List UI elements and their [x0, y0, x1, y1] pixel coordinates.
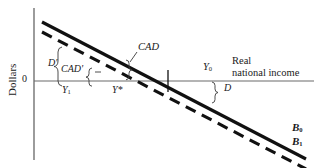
x-axis-title-line1: Real: [232, 55, 299, 67]
curve-label-b1: B1: [292, 136, 303, 148]
curve-b1: [42, 32, 306, 168]
annotation-d: D: [224, 83, 231, 94]
marker-y0: Y0: [203, 61, 212, 73]
annotation-cad: CAD: [138, 41, 159, 52]
leader-cad: [130, 52, 137, 62]
annotation-cad-prime: CAD': [61, 64, 83, 75]
marker-y0-sub: 0: [209, 65, 212, 72]
marker-y1-sub: 1: [68, 88, 71, 95]
y-axis-title: Dollars: [7, 50, 19, 110]
curve-label-b1-sub: 1: [299, 140, 302, 147]
curve-label-b0: B0: [292, 122, 303, 134]
curve-label-b0-sub: 0: [299, 126, 302, 133]
annotation-d-prime: D': [48, 58, 57, 69]
figure-canvas: Dollars 0 Real national income CAD CAD' …: [0, 0, 314, 168]
x-axis-title: Real national income: [232, 55, 299, 79]
marker-y-star: Y*: [112, 85, 123, 96]
brace-cad-prime: [86, 68, 92, 86]
origin-zero-label: 0: [22, 74, 27, 85]
marker-y1: Y1: [62, 85, 71, 96]
brace-d: [212, 82, 218, 103]
x-axis-title-line2: national income: [232, 67, 299, 79]
curve-b0: [42, 22, 306, 159]
diagram-svg: [0, 0, 314, 168]
